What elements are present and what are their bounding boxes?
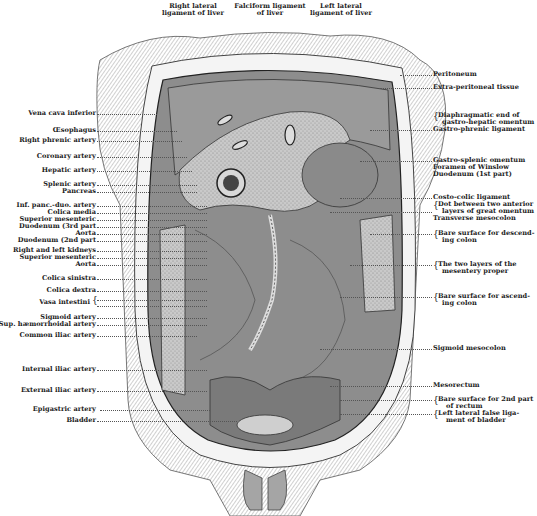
leader-line [97, 192, 197, 193]
label-epigastric-artery: Epigastric artery [33, 406, 96, 413]
leader-line [97, 318, 207, 319]
label-common-iliac-artery: Common iliac artery [20, 332, 96, 339]
label-sigmoid-mesocolon: Sigmoid mesocolon [433, 345, 506, 352]
leader-line [97, 291, 207, 292]
leader-line [97, 258, 207, 259]
label-transverse-mesocolon: Transverse mesocolon [433, 215, 516, 222]
label-mesentery-proper: mesentery proper [442, 268, 508, 275]
label-internal-iliac-artery: Internal iliac artery [22, 366, 96, 373]
leader-line [97, 251, 207, 252]
leader-line [360, 161, 432, 162]
label-colica-dextra: Colica dextra [47, 287, 96, 294]
leader-line [400, 75, 432, 76]
leader-line [97, 141, 182, 142]
leader-line [330, 212, 432, 213]
label-peritoneum: Peritoneum [433, 71, 477, 78]
label-line: of liver [220, 10, 320, 17]
leader-line [370, 234, 432, 235]
leader-line [97, 114, 157, 115]
label-external-iliac-artery: External iliac artery [21, 387, 96, 394]
leader-line [97, 241, 207, 242]
leader-line [97, 336, 197, 337]
label-mesorectum: Mesorectum [433, 382, 480, 389]
label-ment-of-bladder: ment of bladder [446, 417, 506, 424]
label-ing-colon-1: ing colon [442, 237, 477, 244]
leader-line [97, 227, 207, 228]
leader-line [97, 391, 207, 392]
leader-line [380, 88, 432, 89]
leader-line [97, 220, 207, 221]
esophagus-cut [285, 125, 295, 145]
leader-line [97, 370, 207, 371]
leader-line [97, 206, 207, 207]
leader-line [320, 349, 432, 350]
leader-line [97, 131, 177, 132]
leader-line [97, 265, 207, 266]
label-right-phrenic-artery: Right phrenic artery [19, 137, 96, 144]
leader-line [330, 386, 432, 387]
label-extra-peritoneal-tissue: Extra-peritoneal tissue [433, 84, 519, 91]
leader-line [100, 410, 210, 411]
leader-line [97, 325, 207, 326]
label-duodenum-1st: Duodenum (1st part) [433, 171, 512, 178]
label-pancreas: Pancreas [62, 188, 96, 195]
label-bladder: Bladder [66, 417, 96, 424]
leader-line [97, 157, 187, 158]
label-aorta-2: Aorta [75, 261, 96, 268]
label-gastro-phrenic-ligament: Gastro-phrenic ligament [433, 126, 525, 133]
leader-line [340, 400, 432, 401]
leader-line [97, 279, 207, 280]
label-left-lateral-ligament: Left lateral ligament of liver [306, 3, 376, 17]
leader-line [340, 414, 432, 415]
label-hepatic-artery: Hepatic artery [42, 167, 96, 174]
leader-line [97, 306, 207, 307]
leader-line [97, 213, 207, 214]
leader-line [340, 198, 432, 199]
leader-line [370, 130, 432, 131]
leader-line [350, 265, 432, 266]
label-colica-sinistra: Colica sinistra [42, 275, 96, 282]
label-duodenum-2nd: Duodenum (2nd part [18, 237, 96, 244]
label-right-lateral-ligament: Right lateral ligament of liver [158, 3, 228, 17]
label-falciform-ligament: Falciform ligament of liver [220, 3, 320, 17]
label-line: ligament of liver [158, 10, 228, 17]
label-ing-colon-2: ing colon [442, 300, 477, 307]
bladder [237, 415, 293, 435]
leader-line [340, 297, 432, 298]
label-vena-cava-inferior: Vena cava inferior [28, 110, 96, 117]
label-coronary-artery: Coronary artery [37, 153, 96, 160]
leader-line [97, 300, 207, 301]
label-vasa-intestini: Vasa intestini [39, 299, 90, 306]
label-line: ligament of liver [306, 10, 376, 17]
label-sup-haemorrhoidal-artery: Sup. hæmorrhoidal artery [0, 321, 96, 328]
leader-line [97, 171, 192, 172]
leader-line [97, 421, 237, 422]
label-oesophagus: Œsophagus [53, 127, 96, 134]
leader-line [97, 185, 197, 186]
leader-line [97, 234, 207, 235]
